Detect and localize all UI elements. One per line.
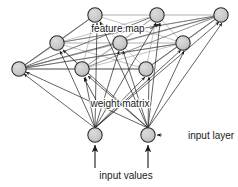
neuron-f10 [50,36,64,50]
neuron-f22 [139,62,153,76]
feature-map-label: feature map [91,23,145,34]
input-node-1 [141,128,155,142]
neuron-f12 [176,36,190,50]
weight-matrix-label: weight matrix [90,98,150,109]
neuron-f02 [214,8,228,22]
input-layer-label: input layer [188,130,235,141]
input-values-label: input values [99,170,152,181]
diagram-canvas: feature map weight matrix input layer in… [0,0,238,187]
neuron-f11 [113,36,127,50]
neural-network-diagram: feature map weight matrix input layer in… [0,0,238,187]
input-node-0 [88,128,102,142]
neuron-f20 [12,62,26,76]
neuron-f01 [150,8,164,22]
neuron-f00 [88,8,102,22]
neuron-f21 [75,62,89,76]
